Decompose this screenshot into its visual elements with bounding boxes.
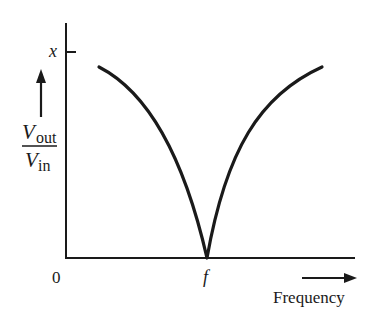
y-direction-arrow-icon — [36, 69, 46, 117]
x-direction-arrow-icon — [302, 273, 357, 283]
y-axis-label: V out V in — [22, 120, 57, 174]
x-axis-label: Frequency — [273, 288, 345, 307]
y-label-denominator-sub: in — [38, 157, 50, 174]
notch-filter-diagram: V out V in x 0 f Frequency — [0, 0, 389, 329]
y-label-numerator-main: V — [22, 120, 37, 144]
y-tick-label: x — [48, 41, 57, 61]
x-tick-label: f — [203, 267, 211, 287]
origin-label: 0 — [52, 268, 61, 287]
response-curve — [99, 67, 322, 258]
y-label-numerator-sub: out — [36, 129, 57, 146]
